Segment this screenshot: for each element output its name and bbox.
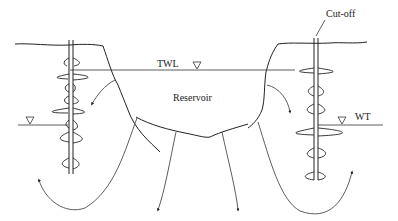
twl-label: TWL <box>157 58 179 69</box>
reservoir-diagram: TWL Reservoir WT Cut-off <box>0 0 398 221</box>
seepage-arrow-left-loop <box>39 118 137 210</box>
reservoir-bottom <box>136 117 248 137</box>
seepage-arrow-right-short <box>267 85 290 112</box>
cutoff-label: Cut-off <box>326 8 356 19</box>
seepage-arrow-center-left <box>158 132 176 210</box>
reservoir-label: Reservoir <box>173 92 213 103</box>
seepage-arrow-center-right <box>222 132 238 210</box>
ground-surface-right <box>248 42 367 128</box>
seepage-arrow-left-short <box>92 80 115 104</box>
twl-marker-icon <box>193 62 201 69</box>
ground-surface-left <box>15 44 160 152</box>
wt-label: WT <box>355 111 371 122</box>
cutoff-wall-left <box>52 40 88 174</box>
seepage-arrow-right-loop <box>258 122 352 214</box>
water-table-right-marker-icon <box>338 117 346 124</box>
water-table-left-marker-icon <box>26 117 34 124</box>
cutoff-wall-right <box>296 20 343 180</box>
